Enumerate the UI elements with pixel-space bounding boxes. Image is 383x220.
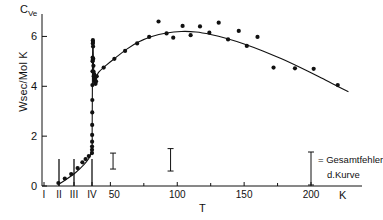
data-point <box>156 19 160 23</box>
data-point <box>198 24 202 28</box>
axes <box>42 14 362 186</box>
data-point <box>147 35 151 39</box>
data-point <box>207 31 211 35</box>
data-point <box>56 181 60 185</box>
data-point <box>271 65 275 69</box>
data-point <box>80 160 84 164</box>
data-point <box>237 29 241 33</box>
data-point-group <box>56 19 340 185</box>
data-point <box>123 49 127 53</box>
data-point <box>76 166 80 170</box>
data-point <box>189 33 193 37</box>
data-point <box>312 67 316 71</box>
data-point <box>226 37 230 41</box>
data-point <box>90 110 94 114</box>
error-bar-group <box>110 149 174 171</box>
data-point <box>135 41 139 45</box>
data-point <box>90 98 94 102</box>
data-point <box>91 57 95 61</box>
data-point <box>90 123 94 127</box>
data-point <box>91 40 95 44</box>
data-point <box>255 35 259 39</box>
data-point <box>90 145 94 149</box>
data-point <box>90 133 94 137</box>
legend-error-bar <box>308 152 314 185</box>
data-point <box>94 79 98 83</box>
data-point <box>91 64 95 68</box>
data-point <box>95 74 99 78</box>
data-point <box>164 31 168 35</box>
data-point <box>217 21 221 25</box>
data-point <box>336 83 340 87</box>
data-point <box>91 44 95 48</box>
data-point <box>84 157 88 161</box>
data-point <box>90 140 94 144</box>
data-point <box>87 154 91 158</box>
data-point <box>181 24 185 28</box>
data-point <box>102 65 106 69</box>
fitted-curve <box>60 31 348 183</box>
data-point <box>63 176 67 180</box>
data-point <box>171 36 175 40</box>
data-point <box>112 57 116 61</box>
data-point <box>245 44 249 48</box>
data-point <box>293 66 297 70</box>
data-point <box>69 172 73 176</box>
